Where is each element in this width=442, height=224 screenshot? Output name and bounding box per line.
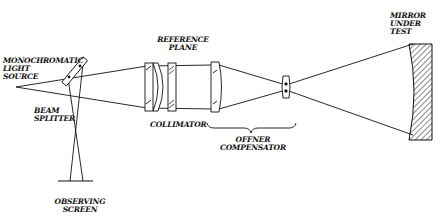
light-source-label: MONOCHROMATIC LIGHT SOURCE [3,57,83,81]
beam-splitter-label: BEAM SPLITTER [34,107,75,123]
reference-plane-label: REFERENCE PLANE [148,36,218,52]
reference-plane [168,63,176,111]
collimator-lens [145,63,163,111]
collimator-label: COLLIMATOR [150,121,207,129]
mirror-under-test [409,44,432,140]
offner-compensator-label: OFFNER COMPENSATOR [218,136,288,152]
observing-screen-label: OBSERVING SCREEN [50,198,110,214]
offner-field-lens [211,62,222,112]
mirror-under-test-label: MIRROR UNDER TEST [390,12,426,36]
offner-brace [207,123,296,133]
offner-relay-lens [282,76,290,98]
